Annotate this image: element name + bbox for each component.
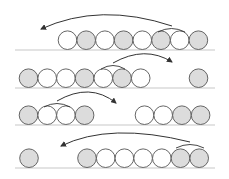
white-circle <box>38 106 57 125</box>
white-circle <box>153 149 172 168</box>
gray-circle <box>77 31 96 50</box>
gray-circle <box>20 149 39 168</box>
white-circle <box>131 69 150 88</box>
white-circle <box>58 31 77 50</box>
white-circle <box>96 149 115 168</box>
white-circle <box>96 31 115 50</box>
white-circle <box>94 69 113 88</box>
gray-circle <box>114 31 133 50</box>
row-2 <box>15 54 215 88</box>
gray-circle <box>113 69 132 88</box>
white-circle <box>134 149 153 168</box>
move-arrow-left-icon <box>41 15 172 29</box>
gray-circle <box>191 106 210 125</box>
white-circle <box>57 106 76 125</box>
circle-rearrangement-diagram <box>0 0 229 179</box>
white-circle <box>38 69 57 88</box>
gray-circle <box>190 149 209 168</box>
row-3 <box>15 92 215 125</box>
white-circle <box>135 106 154 125</box>
gray-circle <box>75 106 94 125</box>
row-1 <box>15 15 215 50</box>
gray-circle <box>78 149 97 168</box>
move-arrow-right-icon <box>113 54 172 63</box>
move-arrow-right-icon <box>57 92 116 103</box>
gray-circle <box>171 149 190 168</box>
white-circle <box>115 149 134 168</box>
row-4 <box>15 133 215 168</box>
gray-circle <box>19 69 38 88</box>
gray-circle <box>189 69 208 88</box>
gray-circle <box>19 106 38 125</box>
gray-circle <box>152 31 171 50</box>
white-circle <box>133 31 152 50</box>
selection-bracket <box>176 145 204 149</box>
gray-circle <box>189 31 208 50</box>
white-circle <box>57 69 76 88</box>
white-circle <box>154 106 173 125</box>
move-arrow-left-icon <box>61 133 190 146</box>
gray-circle <box>173 106 192 125</box>
white-circle <box>170 31 189 50</box>
gray-circle <box>75 69 94 88</box>
